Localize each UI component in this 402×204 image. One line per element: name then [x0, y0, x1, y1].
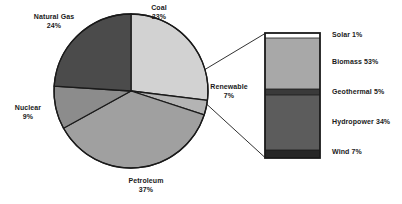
pie-label-coal: Coal 23%: [133, 3, 185, 21]
bar-segment-geothermal[interactable]: [265, 89, 320, 95]
bar-label-biomass: Biomass 53%: [332, 57, 378, 66]
pie-label-natural-gas: Natural Gas 24%: [18, 12, 90, 30]
pie-label-renewable-name: Renewable: [210, 83, 247, 90]
pie-label-nuclear-name: Nuclear: [15, 104, 41, 111]
bar-label-geothermal: Geothermal 5%: [332, 87, 384, 96]
renewable-stacked-bar: [265, 33, 320, 158]
bar-label-hydropower: Hydropower 34%: [332, 117, 390, 126]
pie-label-petroleum: Petroleum 37%: [112, 176, 180, 194]
pie-chart: [54, 14, 208, 168]
pie-label-coal-value: 23%: [133, 12, 185, 21]
pie-label-nuclear: Nuclear 9%: [2, 103, 54, 121]
energy-sources-figure: Natural Gas 24% Coal 23% Nuclear 9% Petr…: [0, 0, 402, 204]
pie-label-petroleum-value: 37%: [112, 185, 180, 194]
bar-label-wind: Wind 7%: [332, 147, 362, 156]
bar-label-solar: Solar 1%: [332, 30, 362, 39]
pie-label-renewable: Renewable 7%: [196, 82, 262, 100]
bar-segment-biomass[interactable]: [265, 38, 320, 89]
pie-label-natural-gas-name: Natural Gas: [34, 13, 74, 20]
pie-label-nuclear-value: 9%: [2, 112, 54, 121]
pie-label-renewable-value: 7%: [196, 91, 262, 100]
pie-label-natural-gas-value: 24%: [18, 21, 90, 30]
bar-segment-wind[interactable]: [265, 150, 320, 158]
bar-segment-hydropower[interactable]: [265, 95, 320, 150]
pie-label-petroleum-name: Petroleum: [128, 177, 163, 184]
pie-label-coal-name: Coal: [151, 4, 167, 11]
